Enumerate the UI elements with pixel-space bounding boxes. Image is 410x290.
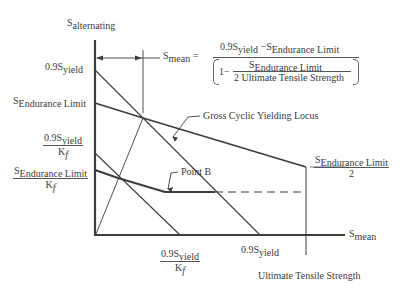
- y-tick-endurance-limit: SEndurance Limit: [13, 96, 86, 106]
- y-axis-label: Salternating: [67, 18, 115, 28]
- y-tick-0.9syield-over-kf: 0.9Syield Kf: [43, 133, 83, 157]
- endurance-limit-half-label: SEndurance Limit 2: [314, 155, 389, 179]
- yield-line-unnotched: [95, 70, 260, 235]
- x-tick-0.9syield-over-kf: 0.9Syield Kf: [160, 249, 200, 273]
- formula-numerator: 0.9Syield −SEndurance Limit: [220, 42, 339, 52]
- formula-main-fraction-bar: [213, 57, 359, 58]
- x-axis-label: Smean: [349, 229, 376, 239]
- formula-inner-denominator: 2 Ultimate Tensile Strength: [234, 73, 344, 83]
- formula-paren-right: [353, 59, 359, 85]
- gross-cyclic-yielding-locus-label: Gross Cyclic Yielding Locus: [203, 111, 318, 121]
- x-tick-ultimate-tensile-strength: Ultimate Tensile Strength: [258, 271, 360, 281]
- formula-lhs: Smean =: [163, 51, 198, 61]
- y-tick-endurance-over-kf: SEndurance Limit Kf: [13, 166, 88, 190]
- y-tick-0.9syield: 0.9Syield: [45, 62, 83, 72]
- point-b-label: Point B: [181, 167, 211, 177]
- point-b-leader: [168, 172, 178, 189]
- yield-line-notched: [95, 153, 180, 235]
- x-tick-0.9syield: 0.9Syield: [241, 245, 279, 255]
- formula-inner-numerator: SEndurance Limit: [249, 60, 322, 70]
- formula-one-minus: 1−: [219, 67, 230, 77]
- load-line: [96, 118, 143, 234]
- smean-formula: Smean = 0.9Syield −SEndurance Limit 1− S…: [163, 40, 363, 90]
